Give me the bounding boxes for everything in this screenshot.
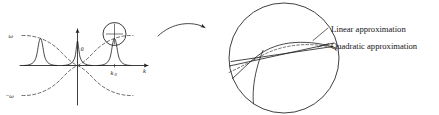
magnification-arrow-path (158, 24, 205, 36)
negative-k-peak (24, 39, 57, 66)
magnification-arrow (158, 24, 205, 36)
linear-approximation-label: Linear approximation (331, 24, 406, 34)
k-zero-label: k (111, 69, 114, 76)
linear-label-leader (313, 28, 328, 41)
omega-branch-left-upper (22, 35, 78, 65)
k-zero-subscript: 0 (115, 72, 118, 77)
linear-approximation-upper-edge (231, 47, 333, 62)
magnified-dispersion-panel: Linear approximation Quadratic approxima… (229, 3, 418, 113)
omega-negative-label: −ω (5, 92, 14, 99)
k-axis-label: k (143, 67, 146, 74)
omega-positive-label: ω (9, 32, 14, 39)
spectrum-panel: ω −ω ũ k 0 k (5, 23, 148, 106)
magnified-view-circle (229, 3, 339, 113)
omega-branch-left-lower (22, 66, 78, 96)
figure-canvas: ω −ω ũ k 0 k (0, 0, 439, 115)
linear-approximation-curve (230, 43, 335, 66)
figure-root: ω −ω ũ k 0 k (0, 0, 439, 115)
quadratic-approximation-label: Quadratic approximation (331, 41, 418, 51)
amplitude-label: ũ (81, 45, 85, 52)
omega-branch-right-lower (78, 66, 134, 96)
exact-dispersion-curve (233, 42, 338, 78)
